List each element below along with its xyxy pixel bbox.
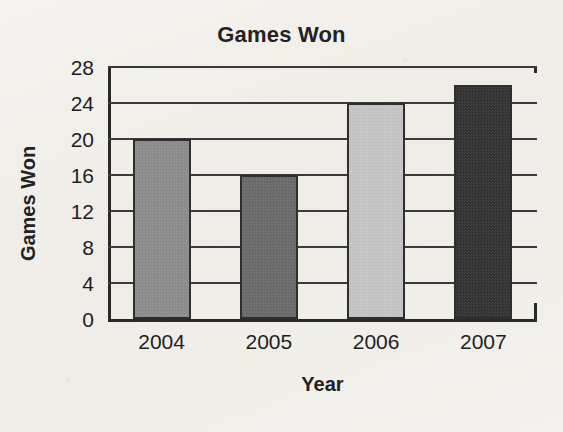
y-tick-label-28: 28 (0, 57, 100, 78)
x-tick-label-2007: 2007 (460, 331, 507, 352)
y-tick-label-8: 8 (0, 237, 100, 258)
x-tick-label-2006: 2006 (353, 331, 400, 352)
x-axis-title: Year (108, 373, 537, 396)
y-axis-tick-labels: 0481216202428 (0, 0, 100, 432)
x-tick-label-2004: 2004 (138, 331, 185, 352)
x-tick-label-2005: 2005 (246, 331, 293, 352)
bar-2004 (133, 139, 191, 319)
bar-2007 (454, 85, 512, 319)
plot-area (108, 67, 537, 322)
y-tick-label-20: 20 (0, 129, 100, 150)
y-tick-label-12: 12 (0, 201, 100, 222)
gridline-28 (108, 66, 537, 68)
plot-right-cap-bottom (534, 303, 537, 322)
y-tick-label-4: 4 (0, 273, 100, 294)
bar-2006 (347, 103, 405, 319)
bar-2005 (240, 175, 298, 319)
bar-chart: Games Won 0481216202428 2004200520062007… (0, 0, 563, 432)
x-axis-line (108, 319, 537, 322)
y-axis-title: Games Won (17, 119, 40, 289)
y-tick-label-0: 0 (0, 309, 100, 330)
y-tick-label-24: 24 (0, 93, 100, 114)
x-axis-tick-labels: 2004200520062007 (108, 331, 537, 361)
y-tick-label-16: 16 (0, 165, 100, 186)
